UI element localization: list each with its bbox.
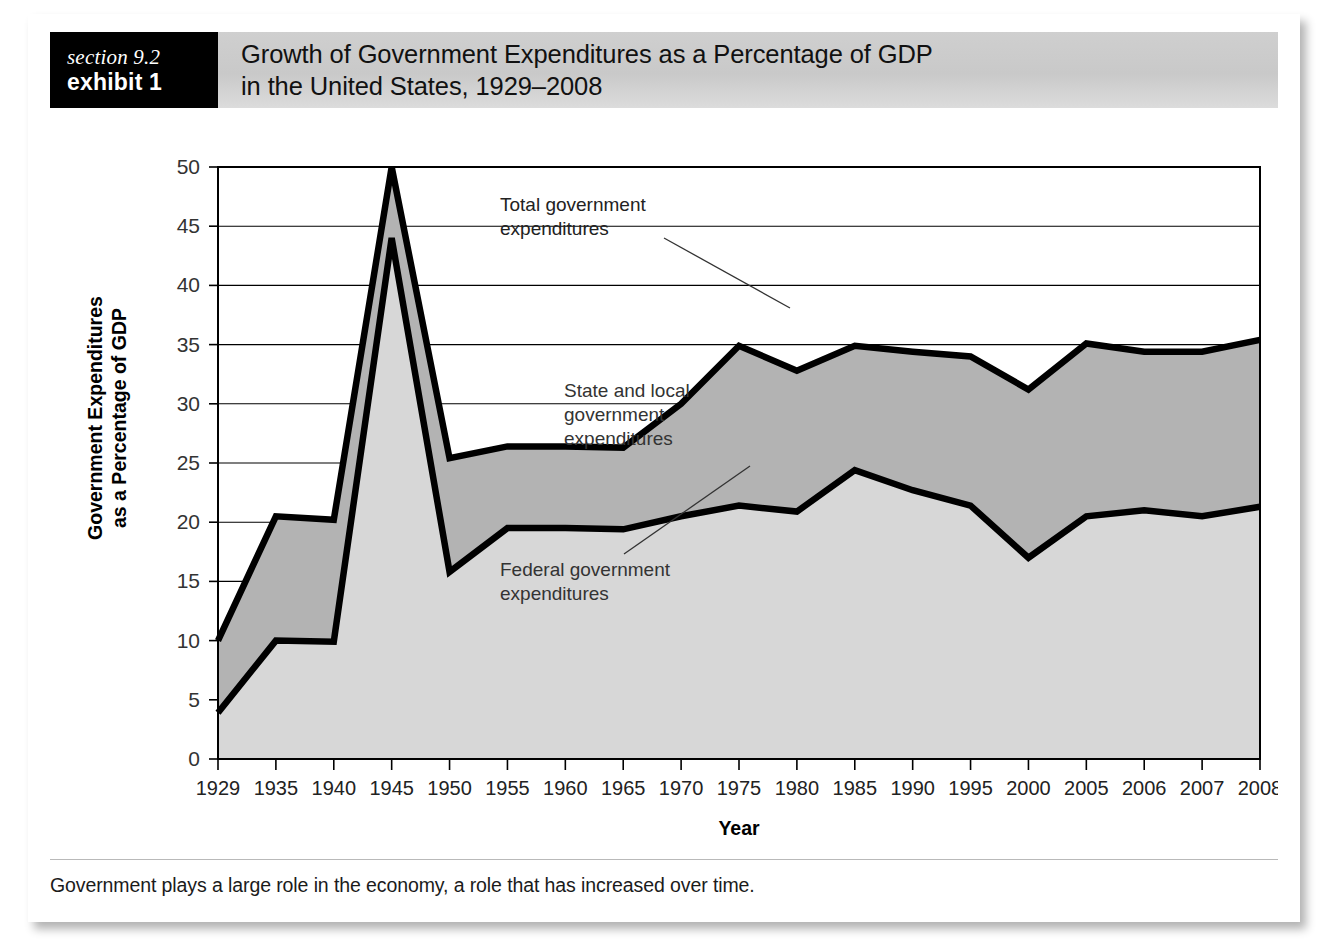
x-axis-tick-label: 2006 [1122, 777, 1167, 799]
y-axis-tick-label: 50 [177, 155, 200, 178]
annotation-state-local-line-1: State and local [564, 380, 690, 401]
y-axis-label-line-2: as a Percentage of GDP [108, 308, 130, 528]
x-axis-tick-label: 2005 [1064, 777, 1109, 799]
y-axis-tick-label: 35 [177, 333, 200, 356]
y-axis-tick-label: 20 [177, 510, 200, 533]
x-axis-tick-label: 1965 [601, 777, 646, 799]
y-axis-tick-labels: 05101520253035404550 [177, 155, 200, 770]
x-axis-ticks [218, 759, 1260, 770]
caption-divider [50, 859, 1278, 860]
x-axis-tick-label: 1995 [948, 777, 993, 799]
y-axis-tick-label: 45 [177, 214, 200, 237]
y-axis-label: Government Expenditures as a Percentage … [84, 296, 130, 540]
y-axis-tick-label: 5 [188, 688, 200, 711]
x-axis-tick-label: 2007 [1180, 777, 1225, 799]
exhibit-title-line-2: in the United States, 1929–2008 [241, 70, 1278, 102]
chart-container: 05101520253035404550 1929193519401945195… [50, 118, 1278, 860]
y-axis-tick-label: 0 [188, 747, 200, 770]
x-axis-label: Year [718, 817, 760, 839]
x-axis-tick-label: 1980 [775, 777, 820, 799]
x-axis-tick-label: 1940 [312, 777, 357, 799]
x-axis-tick-label: 1945 [369, 777, 414, 799]
annotation-total-line-1: Total government [500, 194, 646, 215]
x-axis-tick-label: 2000 [1006, 777, 1051, 799]
annotation-state-local-line-3: expenditures [564, 428, 673, 449]
y-axis-tick-label: 15 [177, 569, 200, 592]
x-axis-tick-label: 2008 [1238, 777, 1278, 799]
exhibit-card: section 9.2 exhibit 1 Growth of Governme… [28, 14, 1300, 922]
x-axis-tick-labels: 1929193519401945195019551960196519701975… [196, 777, 1278, 799]
exhibit-caption: Government plays a large role in the eco… [50, 874, 1250, 897]
annotation-state-local-line-2: government [564, 404, 665, 425]
x-axis-tick-label: 1975 [717, 777, 762, 799]
annotation-federal-line-1: Federal government [500, 559, 671, 580]
x-axis-tick-label: 1935 [254, 777, 299, 799]
y-axis-tick-label: 10 [177, 629, 200, 652]
x-axis-tick-label: 1950 [427, 777, 472, 799]
exhibit-title: Growth of Government Expenditures as a P… [218, 32, 1278, 108]
area-chart: 05101520253035404550 1929193519401945195… [50, 118, 1278, 860]
exhibit-header: section 9.2 exhibit 1 Growth of Governme… [50, 32, 1278, 108]
exhibit-label: exhibit 1 [67, 69, 218, 96]
x-axis-tick-label: 1970 [659, 777, 704, 799]
annotation-federal-line-2: expenditures [500, 583, 609, 604]
y-axis-tick-label: 30 [177, 392, 200, 415]
y-axis-tick-label: 40 [177, 273, 200, 296]
exhibit-title-line-1: Growth of Government Expenditures as a P… [241, 38, 1278, 70]
y-axis-tick-label: 25 [177, 451, 200, 474]
x-axis-tick-label: 1990 [890, 777, 935, 799]
annotation-total-line-2: expenditures [500, 218, 609, 239]
y-axis-label-line-1: Government Expenditures [84, 296, 106, 540]
x-axis-tick-label: 1985 [833, 777, 878, 799]
section-label: section 9.2 [67, 45, 218, 69]
section-exhibit-block: section 9.2 exhibit 1 [50, 32, 218, 108]
x-axis-tick-label: 1960 [543, 777, 588, 799]
x-axis-tick-label: 1955 [485, 777, 530, 799]
x-axis-tick-label: 1929 [196, 777, 241, 799]
